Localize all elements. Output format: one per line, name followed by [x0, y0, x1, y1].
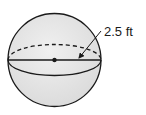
sphere-diagram: 2.5 ft	[0, 0, 146, 115]
radius-label: 2.5 ft	[104, 24, 133, 39]
center-point	[52, 58, 56, 62]
